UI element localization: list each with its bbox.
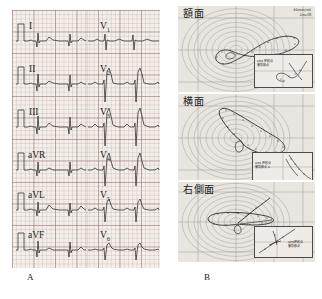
ecg-lead-label-I: I xyxy=(29,22,32,32)
ecg-lead-V2-index: 2 xyxy=(107,70,110,76)
ecg-lead-label-aVL: aVL xyxy=(28,191,45,201)
vcg-inset-caption-right-sagittal: QRS环起点 接前移点 xyxy=(288,241,303,249)
ecg-lead-label-V4: V4 xyxy=(100,151,110,162)
panel-a-caption: A xyxy=(27,272,34,282)
vcg-scale-note: 40mm/mV 2mv/白 xyxy=(293,8,311,17)
vcg-plane-label-right-sagittal: 右側面 xyxy=(183,185,215,196)
ecg-lead-V4-index: 4 xyxy=(107,156,110,162)
panel-b-caption: B xyxy=(204,272,210,282)
vcg-plane-label-transverse: 横面 xyxy=(183,97,204,108)
ecg-lead-V6-letter: V xyxy=(100,230,107,240)
vcg-inset-caption-frontal: QRS 环起点 接前移点 xyxy=(257,60,273,68)
ecg-lead-label-V2: V2 xyxy=(100,65,110,76)
vcg-plane-frontal: 額面 40mm/mV 2mv/白 xyxy=(178,6,315,92)
vcg-plane-right-sagittal: 右側面 xyxy=(178,182,315,262)
ecg-panel: I II III aVR aVL aVF V1 V2 V3 V4 V5 V6 xyxy=(12,10,160,268)
ecg-lead-label-V1: V1 xyxy=(100,22,110,33)
ecg-lead-label-V3: V3 xyxy=(100,108,110,119)
ecg-lead-V5-index: 5 xyxy=(107,196,110,202)
ecg-lead-V3-index: 3 xyxy=(107,113,110,119)
vcg-plane-label-frontal: 額面 xyxy=(183,9,204,20)
vcg-inset-caption-transverse: QRS 环起点 接前移点 A xyxy=(255,162,271,170)
vcg-inset-frontal: QRS 环起点 接前移点 xyxy=(254,54,313,88)
vcg-inset-right-sagittal: QRS环起点 接前移点 xyxy=(254,226,313,258)
ecg-lead-label-III: III xyxy=(29,108,39,118)
ecg-lead-V1-index: 1 xyxy=(107,27,110,33)
ecg-lead-label-aVR: aVR xyxy=(28,151,45,161)
ecg-lead-label-aVF: aVF xyxy=(28,231,44,241)
vcg-plane-transverse: 横面 QRS 环起点 接前移点 A xyxy=(178,94,315,180)
ecg-lead-V4-letter: V xyxy=(100,150,107,160)
ecg-lead-V3-letter: V xyxy=(100,107,107,117)
ecg-lead-label-V5: V5 xyxy=(100,191,110,202)
ecg-lead-V2-letter: V xyxy=(100,64,107,74)
ecg-lead-label-V6: V6 xyxy=(100,231,110,242)
figure-root: I II III aVR aVL aVF V1 V2 V3 V4 V5 V6 xyxy=(0,0,322,299)
ecg-lead-V5-letter: V xyxy=(100,190,107,200)
vcg-inset-transverse: QRS 环起点 接前移点 A xyxy=(252,152,313,180)
ecg-lead-label-II: II xyxy=(29,65,35,75)
ecg-lead-V1-letter: V xyxy=(100,21,107,31)
ecg-lead-V6-index: 6 xyxy=(107,236,110,242)
vcg-panel: 額面 40mm/mV 2mv/白 xyxy=(178,6,315,268)
